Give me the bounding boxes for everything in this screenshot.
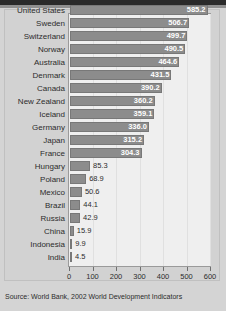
bar[interactable] (70, 174, 86, 184)
bar-value-label: 4.5 (72, 252, 85, 262)
bar-row: Japan315.2 (0, 134, 226, 147)
bar-value-label: 9.9 (72, 239, 85, 249)
bar-track: 490.5 (70, 43, 211, 56)
category-label: United States (0, 4, 65, 17)
category-label: Hungary (0, 160, 65, 173)
bar-track: 585.2 (70, 4, 211, 17)
bar-track: 68.9 (70, 173, 211, 186)
bar-row: Brazil44.1 (0, 199, 226, 212)
bar-row: Germany336.0 (0, 121, 226, 134)
bar-track: 359.1 (70, 108, 211, 121)
bar-value-label: 304.3 (70, 148, 142, 158)
bar-row: United States585.2 (0, 4, 226, 17)
bar-row: India4.5 (0, 251, 226, 264)
category-label: Germany (0, 121, 65, 134)
x-tick-500 (187, 267, 188, 271)
bar-track: 44.1 (70, 199, 211, 212)
bar-row: Norway490.5 (0, 43, 226, 56)
bar-row: Hungary85.3 (0, 160, 226, 173)
bar[interactable] (70, 161, 90, 171)
bar-track: 42.9 (70, 212, 211, 225)
category-label: France (0, 147, 65, 160)
x-tick-600 (210, 267, 211, 271)
x-tick-300 (140, 267, 141, 271)
bar-track: 464.6 (70, 56, 211, 69)
x-axis: 0100200300400500600 (68, 267, 211, 283)
bar-value-label: 431.5 (70, 70, 171, 80)
category-label: India (0, 251, 65, 264)
category-label: Norway (0, 43, 65, 56)
category-label: Switzerland (0, 30, 65, 43)
x-tick-label: 600 (204, 272, 217, 281)
bar-row: Poland68.9 (0, 173, 226, 186)
bar-value-label: 390.2 (70, 83, 162, 93)
bar-value-label: 585.2 (70, 5, 208, 15)
category-label: Australia (0, 56, 65, 69)
bar-track: 431.5 (70, 69, 211, 82)
x-tick-label: 300 (133, 272, 146, 281)
category-label: Poland (0, 173, 65, 186)
bar-value-label: 464.6 (70, 57, 179, 67)
chart-figure: United States585.2Sweden506.7Switzerland… (0, 0, 226, 311)
bar-track: 85.3 (70, 160, 211, 173)
x-tick-200 (116, 267, 117, 271)
bar-value-label: 336.0 (70, 122, 149, 132)
category-label: China (0, 225, 65, 238)
bar-row: Sweden506.7 (0, 17, 226, 30)
bar-row: Iceland359.1 (0, 108, 226, 121)
bar[interactable] (70, 213, 80, 223)
bar-value-label: 44.1 (80, 200, 98, 210)
category-label: Canada (0, 82, 65, 95)
bar-track: 360.2 (70, 95, 211, 108)
bar-rows: United States585.2Sweden506.7Switzerland… (0, 4, 226, 264)
category-label: Indonesia (0, 238, 65, 251)
x-tick-label: 0 (67, 272, 71, 281)
x-tick-label: 200 (110, 272, 123, 281)
x-tick-label: 100 (86, 272, 99, 281)
bar-track: 390.2 (70, 82, 211, 95)
bar-row: France304.3 (0, 147, 226, 160)
bar-row: Switzerland499.7 (0, 30, 226, 43)
bar-row: New Zealand360.2 (0, 95, 226, 108)
category-label: Sweden (0, 17, 65, 30)
x-tick-100 (93, 267, 94, 271)
category-label: New Zealand (0, 95, 65, 108)
category-label: Denmark (0, 69, 65, 82)
bar-row: Indonesia9.9 (0, 238, 226, 251)
bar-value-label: 499.7 (70, 31, 187, 41)
bar[interactable] (70, 200, 80, 210)
bar-value-label: 506.7 (70, 18, 189, 28)
bar-row: Denmark431.5 (0, 69, 226, 82)
x-tick-label: 400 (157, 272, 170, 281)
bar-track: 506.7 (70, 17, 211, 30)
bar-value-label: 490.5 (70, 44, 185, 54)
bar-track: 15.9 (70, 225, 211, 238)
bar-value-label: 359.1 (70, 109, 154, 119)
bar-value-label: 68.9 (86, 174, 104, 184)
bar-row: Russia42.9 (0, 212, 226, 225)
bar-track: 336.0 (70, 121, 211, 134)
category-label: Russia (0, 212, 65, 225)
bar-value-label: 85.3 (90, 161, 108, 171)
bar-track: 499.7 (70, 30, 211, 43)
category-label: Mexico (0, 186, 65, 199)
bar-track: 315.2 (70, 134, 211, 147)
bar-value-label: 50.6 (82, 187, 100, 197)
bar-track: 304.3 (70, 147, 211, 160)
bar-track: 4.5 (70, 251, 211, 264)
x-tick-0 (69, 267, 70, 271)
category-label: Iceland (0, 108, 65, 121)
bar-value-label: 315.2 (70, 135, 144, 145)
bar-track: 9.9 (70, 238, 211, 251)
bar-value-label: 42.9 (80, 213, 98, 223)
bar-row: Mexico50.6 (0, 186, 226, 199)
bar[interactable] (70, 187, 82, 197)
bar-value-label: 360.2 (70, 96, 155, 106)
bar-row: China15.9 (0, 225, 226, 238)
category-label: Brazil (0, 199, 65, 212)
source-note: Source: World Bank, 2002 World Developme… (5, 293, 182, 300)
bar-value-label: 15.9 (74, 226, 92, 236)
x-tick-400 (163, 267, 164, 271)
x-tick-label: 500 (180, 272, 193, 281)
category-label: Japan (0, 134, 65, 147)
